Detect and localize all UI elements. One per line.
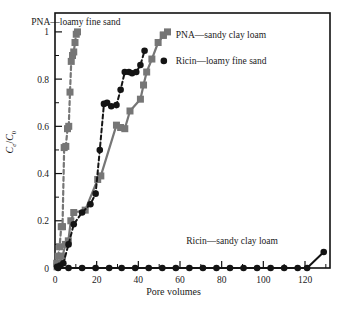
y-axis-label-numerator-sub: e [10,144,18,147]
data-point-circle [118,265,125,272]
data-point-circle [281,265,288,272]
data-point-square [140,82,147,89]
data-point-circle [65,241,72,248]
x-tick-label: 20 [92,275,102,285]
data-point-circle [70,221,77,228]
x-tick-label: 60 [175,275,185,285]
data-point-circle [117,86,124,93]
data-point-square [70,48,77,55]
data-point-circle [267,265,274,272]
data-point-circle [304,265,311,272]
x-tick-label: 120 [298,275,313,285]
data-point-square [143,69,150,76]
data-point-circle [141,47,148,54]
series-3 [55,249,327,272]
data-point-square [67,89,74,96]
y-tick-label: 0.6 [37,122,49,132]
data-point-circle [132,265,139,272]
data-point-square [70,209,77,216]
y-axis-label-slash: / [4,141,15,144]
data-point-circle [240,265,247,272]
x-tick-label: 40 [134,275,144,285]
data-point-circle [65,265,72,272]
y-axis-label: Ce/C0 [4,107,18,177]
data-point-square [59,223,66,230]
data-point-circle [79,209,86,216]
data-point-square [137,96,144,103]
annotation-0: PNA—loamy fine sand [31,17,120,27]
data-point-square [74,28,81,35]
y-tick-label: 1 [44,27,49,37]
annotation-2: Ricin—loamy fine sand [161,56,267,66]
data-point-square [72,39,79,46]
x-tick-label: 100 [256,275,271,285]
data-point-circle [227,265,234,272]
y-tick-label: 0.2 [37,216,49,226]
annotation-label: Ricin—loamy fine sand [176,56,267,66]
y-axis-label-numerator: C [4,147,15,154]
y-axis-label-denominator-sub: 0 [10,131,18,135]
data-point-circle [200,265,207,272]
annotation-label: PNA—loamy fine sand [31,17,120,27]
data-point-circle [137,62,144,69]
data-point-square [148,56,155,63]
annotation-label: PNA—sandy clay loam [176,30,267,40]
series-line [57,32,167,267]
data-point-square [62,143,69,150]
data-point-square [65,123,72,130]
chart-figure: 02040608010012000.20.40.60.81PNA—loamy f… [0,0,347,309]
y-tick-label: 0.8 [37,75,49,85]
data-point-circle [87,201,94,208]
data-point-circle [186,265,193,272]
series-0 [53,28,81,266]
y-axis-label-denominator: C [4,134,15,141]
annotation-1: PNA—sandy clay loam [160,30,267,40]
data-point-circle [213,265,220,272]
data-point-circle [79,265,86,272]
data-point-square [121,125,128,132]
data-point-circle [159,265,166,272]
plot-frame [55,13,330,268]
data-point-circle [92,265,99,272]
data-point-circle [92,190,99,197]
annotation-marker-square [160,31,167,38]
chart-canvas: 02040608010012000.20.40.60.81PNA—loamy f… [0,0,347,309]
data-point-circle [254,265,261,272]
data-point-circle [173,265,180,272]
data-point-square [127,107,134,114]
y-tick-label: 0 [44,264,49,274]
data-point-circle [133,69,140,76]
annotation-marker-circle [161,58,168,65]
data-point-circle [320,249,327,256]
data-point-circle [106,265,113,272]
x-tick-label: 0 [53,275,58,285]
data-point-circle [96,147,103,154]
data-point-circle [55,265,62,272]
x-tick-label: 80 [217,275,227,285]
data-point-circle [294,265,301,272]
data-point-square [155,39,162,46]
y-tick-label: 0.4 [37,169,49,179]
annotation-3: Ricin—sandy clay loam [186,236,278,246]
data-point-circle [113,102,120,109]
x-axis-label: Pore volumes [0,286,347,297]
data-point-circle [60,260,67,267]
annotation-label: Ricin—sandy clay loam [186,236,278,246]
data-point-circle [145,265,152,272]
